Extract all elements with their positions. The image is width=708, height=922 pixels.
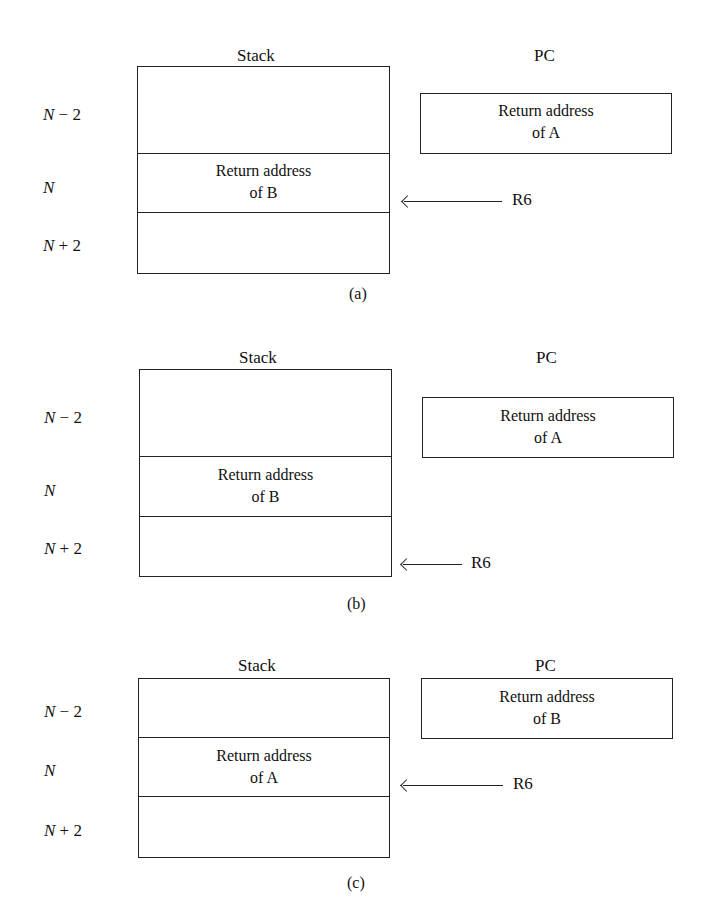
panel-caption: (c) [347,874,365,892]
pc-line: of B [421,708,673,730]
stack-heading: Stack [237,46,275,66]
stack-heading: Stack [239,348,277,368]
stack-cell-n: Return address of B [137,160,390,204]
pointer-label-r6: R6 [471,553,491,573]
stack-divider [137,212,390,213]
row-label-n: N [44,481,55,501]
pointer-label-r6: R6 [513,774,533,794]
row-var: N [44,821,55,840]
row-op: − 2 [54,105,81,124]
row-op: + 2 [55,539,82,558]
stack-divider [138,737,390,738]
pc-line: Return address [421,686,673,708]
stack-cell-line: of A [138,767,390,789]
stack-cell-line: of B [139,486,392,508]
row-var: N [44,702,55,721]
row-var: N [43,178,54,197]
pointer-label-r6: R6 [512,190,532,210]
stack-divider [137,153,390,154]
row-label-n: N [44,761,55,781]
row-op: − 2 [55,702,82,721]
panel-caption: (a) [349,285,367,303]
pc-heading: PC [534,46,555,66]
row-label-n: N [43,178,54,198]
stack-divider [139,516,392,517]
row-label-n-minus-2: N − 2 [44,702,82,722]
row-var: N [43,105,54,124]
pc-line: Return address [420,100,672,122]
stack-divider [138,796,390,797]
stack-cell-line: Return address [139,464,392,486]
row-label-n-minus-2: N − 2 [43,105,81,125]
stack-cell-n: Return address of A [138,745,390,789]
pc-content: Return address of B [421,686,673,730]
left-arrow-icon [403,785,503,786]
panel-caption: (b) [347,595,366,613]
row-var: N [44,408,55,427]
left-arrow-icon [404,201,502,202]
row-var: N [44,539,55,558]
stack-cell-line: Return address [138,745,390,767]
pc-heading: PC [535,656,556,676]
stack-cell-n: Return address of B [139,464,392,508]
row-op: + 2 [54,236,81,255]
row-label-n-plus-2: N + 2 [43,236,81,256]
pc-content: Return address of A [422,405,674,449]
pc-line: of A [422,427,674,449]
stack-cell-line: of B [137,182,390,204]
row-var: N [44,761,55,780]
row-var: N [44,481,55,500]
stack-heading: Stack [238,656,276,676]
row-var: N [43,236,54,255]
pc-heading: PC [536,348,557,368]
pc-line: of A [420,122,672,144]
row-label-n-plus-2: N + 2 [44,821,82,841]
stack-cell-line: Return address [137,160,390,182]
row-op: − 2 [55,408,82,427]
row-op: + 2 [55,821,82,840]
row-label-n-minus-2: N − 2 [44,408,82,428]
row-label-n-plus-2: N + 2 [44,539,82,559]
left-arrow-icon [403,564,462,565]
pc-line: Return address [422,405,674,427]
stack-divider [139,456,392,457]
pc-content: Return address of A [420,100,672,144]
